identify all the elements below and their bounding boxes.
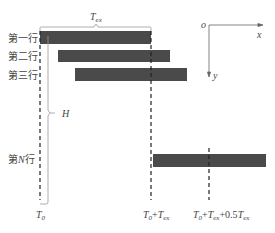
coordinate-axes: [208, 24, 264, 78]
height-bracket: [40, 36, 55, 204]
height-label: H: [61, 108, 70, 119]
scan-timing-diagram: Tex H 第一行 第二行 第三行 第N行 o x y T0 T0+Tex T0…: [0, 0, 275, 233]
row-label-2: 第二行: [8, 50, 38, 62]
time-label-t1: T0+Tex: [143, 209, 170, 222]
row-label-n: 第N行: [8, 153, 35, 165]
row-label-3: 第三行: [8, 69, 38, 81]
row-bar-1: [40, 31, 151, 44]
row-bar-2: [58, 50, 170, 62]
axis-y-label: y: [212, 70, 218, 81]
row-bar-3: [75, 68, 187, 81]
tex-label: Tex: [90, 11, 103, 24]
axis-origin-label: o: [201, 19, 206, 30]
tex-bracket: [40, 24, 151, 31]
time-label-t0: T0: [36, 209, 46, 222]
row-label-1: 第一行: [8, 32, 38, 44]
axis-x-label: x: [256, 29, 262, 40]
time-label-t2: T0+Tex+0.5Tex: [193, 209, 250, 222]
